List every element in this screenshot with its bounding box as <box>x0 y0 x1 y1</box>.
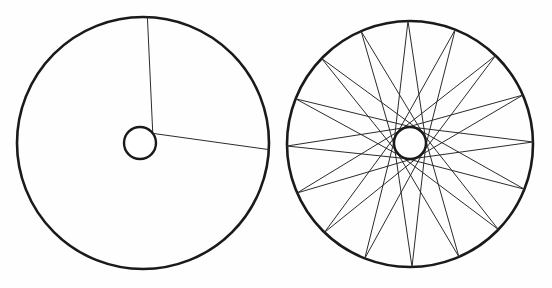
right-wheel <box>287 21 533 267</box>
wheel-diagram-figure <box>0 0 552 288</box>
left-wheel-hub <box>124 127 156 159</box>
right-spoke-leading-4 <box>412 146 426 267</box>
right-spoke-leading-12 <box>394 21 408 140</box>
left-wheel-spokes <box>147 17 268 150</box>
right-spoke-leading-3 <box>426 140 459 257</box>
right-spoke-leading-0 <box>413 127 533 142</box>
left-spoke-1 <box>153 133 269 149</box>
right-wheel-hub <box>394 127 426 159</box>
right-spoke-leading-8 <box>287 146 407 159</box>
right-spoke-leading-7 <box>297 159 413 193</box>
right-spoke-leading-9 <box>296 99 402 157</box>
right-spoke-trailing-6 <box>419 95 523 156</box>
left-spoke-0 <box>147 17 152 133</box>
left-wheel <box>17 17 269 269</box>
diagram-svg-root <box>0 0 552 288</box>
